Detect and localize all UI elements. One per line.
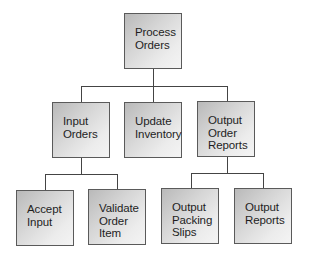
node-label-line: Reports — [208, 139, 254, 152]
node-label-line: Orders — [135, 39, 181, 52]
node-label-line: Order — [99, 215, 145, 228]
node-label-line: Order — [208, 127, 254, 140]
connector-to-accept-input — [45, 174, 46, 190]
node-validate-order-item: Validate Order Item — [88, 189, 146, 245]
node-input-orders: Input Orders — [52, 102, 110, 158]
node-label-line: Input — [27, 216, 73, 229]
connector-level1-bar — [81, 86, 228, 87]
node-process-orders: Process Orders — [124, 13, 182, 69]
node-label-line: Process — [135, 26, 181, 39]
node-label-line: Orders — [63, 128, 109, 141]
node-label-line: Packing — [172, 214, 218, 227]
node-label-line: Output — [208, 114, 254, 127]
connector-output-order-reports-bar — [191, 173, 264, 174]
node-label-line: Reports — [245, 214, 291, 227]
connector-to-update-inventory — [153, 86, 154, 102]
node-label-line: Input — [63, 115, 109, 128]
node-accept-input: Accept Input — [16, 190, 74, 246]
connector-to-output-reports — [263, 173, 264, 188]
node-label-line: Update — [135, 115, 181, 128]
connector-to-output-packing-slips — [191, 173, 192, 188]
connector-input-orders-down — [81, 158, 82, 174]
node-update-inventory: Update Inventory — [124, 102, 182, 158]
node-output-reports: Output Reports — [234, 188, 292, 244]
connector-input-orders-bar — [45, 174, 118, 175]
connector-root-down — [153, 69, 154, 86]
node-label-line: Accept — [27, 203, 73, 216]
node-label-line: Inventory — [135, 128, 181, 141]
connector-to-validate-order-item — [117, 174, 118, 189]
node-label-line: Validate — [99, 202, 145, 215]
node-label-line: Item — [99, 227, 145, 240]
connector-output-order-reports-down — [227, 157, 228, 173]
connector-to-input-orders — [81, 86, 82, 102]
node-label-line: Slips — [172, 226, 218, 239]
node-output-packing-slips: Output Packing Slips — [161, 188, 219, 244]
hierarchy-diagram: Process Orders Input Orders Update Inven… — [0, 0, 311, 255]
node-label-line: Output — [172, 201, 218, 214]
node-label-line: Output — [245, 201, 291, 214]
node-output-order-reports: Output Order Reports — [197, 101, 255, 157]
connector-to-output-order-reports — [227, 86, 228, 101]
